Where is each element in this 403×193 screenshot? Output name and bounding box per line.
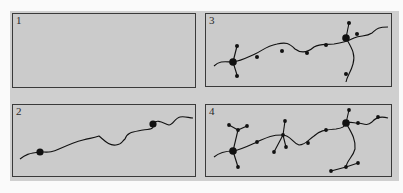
node — [344, 72, 348, 76]
panel-1-label: 1 — [16, 14, 22, 26]
node — [283, 119, 287, 123]
branch — [346, 123, 355, 167]
main-trunk — [214, 117, 388, 157]
node — [245, 124, 249, 128]
node — [272, 150, 276, 154]
hub-node — [36, 148, 43, 155]
main-trunk — [214, 27, 388, 66]
node — [284, 145, 288, 149]
node — [329, 169, 333, 173]
node — [281, 133, 285, 137]
node — [347, 108, 351, 112]
node — [347, 21, 351, 25]
hub-node — [342, 34, 350, 42]
node — [236, 165, 240, 169]
main-trunk — [20, 117, 193, 159]
panel-3: 3 — [205, 13, 392, 87]
panel-1: 1 — [12, 13, 196, 88]
hub-node — [229, 147, 237, 155]
branch — [283, 121, 285, 135]
panel-4: 4 — [205, 104, 392, 177]
node — [324, 128, 328, 132]
node — [235, 44, 239, 48]
node — [376, 115, 380, 119]
panel-4-network — [206, 105, 393, 178]
node — [355, 32, 359, 36]
node — [280, 49, 284, 53]
node — [235, 74, 239, 78]
hub-node — [229, 58, 237, 66]
node — [305, 51, 309, 55]
node — [255, 55, 259, 59]
branch — [274, 135, 283, 152]
hub-node — [342, 119, 350, 127]
hub-node — [149, 120, 156, 127]
panel-3-network — [206, 14, 393, 88]
node — [356, 121, 360, 125]
node — [306, 141, 310, 145]
node — [344, 165, 348, 169]
node — [324, 43, 328, 47]
node — [255, 140, 259, 144]
node — [227, 123, 231, 127]
node — [356, 161, 360, 165]
node — [236, 128, 240, 132]
panel-2-network — [13, 105, 197, 178]
panel-2: 2 — [12, 104, 196, 177]
